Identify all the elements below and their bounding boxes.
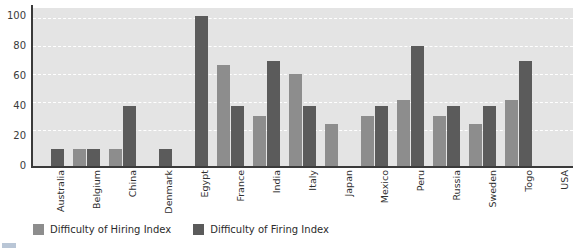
- bar-togo-firing: [519, 61, 532, 166]
- bar-egypt-firing: [195, 16, 208, 166]
- x-label-italy: Italy: [307, 170, 318, 191]
- x-label-mexico: Mexico: [379, 170, 390, 203]
- x-label-egypt: Egypt: [199, 170, 210, 197]
- bar-mexico-firing: [375, 106, 388, 166]
- x-axis-line: [31, 166, 573, 168]
- x-label-russia: Russia: [451, 170, 462, 201]
- bar-group: [217, 8, 245, 166]
- bar-belgium-hiring: [73, 149, 86, 166]
- x-label-china: China: [127, 170, 138, 197]
- bar-japan-hiring: [325, 124, 338, 166]
- bar-group: [433, 8, 461, 166]
- bar-india-firing: [267, 61, 280, 166]
- bar-russia-firing: [447, 106, 460, 166]
- bar-group: [397, 8, 425, 166]
- bar-belgium-firing: [87, 149, 100, 166]
- x-label-india: India: [271, 170, 282, 193]
- bar-france-hiring: [217, 65, 230, 166]
- bar-sweden-hiring: [469, 124, 482, 166]
- y-tick-label-60: 60: [0, 71, 26, 81]
- y-tick-label-100: 100: [0, 11, 26, 21]
- x-label-denmark: Denmark: [163, 170, 174, 214]
- x-label-peru: Peru: [415, 170, 426, 191]
- legend-label: Difficulty of Firing Index: [210, 224, 329, 235]
- bar-france-firing: [231, 106, 244, 166]
- bar-chart: 020406080100 AustraliaBelgiumChinaDenmar…: [0, 0, 585, 250]
- bar-italy-hiring: [289, 74, 302, 166]
- bar-china-firing: [123, 106, 136, 166]
- bar-denmark-firing: [159, 149, 172, 166]
- bar-group: [37, 8, 65, 166]
- bar-group: [505, 8, 533, 166]
- bar-peru-firing: [411, 46, 424, 166]
- bar-russia-hiring: [433, 116, 446, 166]
- legend-swatch-icon: [193, 224, 204, 235]
- bar-group: [469, 8, 497, 166]
- x-axis-category-labels: AustraliaBelgiumChinaDenmarkEgyptFranceI…: [0, 170, 585, 216]
- bar-togo-hiring: [505, 100, 518, 166]
- x-label-togo: Togo: [523, 170, 534, 192]
- x-label-australia: Australia: [55, 170, 66, 212]
- y-tick-label-20: 20: [0, 131, 26, 141]
- legend-item-firing[interactable]: Difficulty of Firing Index: [193, 224, 329, 235]
- y-axis-line: [31, 5, 33, 168]
- chart-legend: Difficulty of Hiring IndexDifficulty of …: [33, 224, 343, 235]
- x-label-japan: Japan: [343, 170, 354, 197]
- plot-area: [33, 8, 573, 166]
- legend-item-hiring[interactable]: Difficulty of Hiring Index: [33, 224, 171, 235]
- bar-group: [181, 8, 209, 166]
- legend-label: Difficulty of Hiring Index: [50, 224, 171, 235]
- bar-group: [361, 8, 389, 166]
- legend-swatch-icon: [33, 224, 44, 235]
- x-label-usa: USA: [559, 170, 570, 190]
- x-label-belgium: Belgium: [91, 170, 102, 209]
- bar-china-hiring: [109, 149, 122, 166]
- x-label-sweden: Sweden: [487, 170, 498, 208]
- bar-group: [289, 8, 317, 166]
- bar-australia-firing: [51, 149, 64, 166]
- bar-group: [253, 8, 281, 166]
- page-corner-mark: [2, 243, 16, 248]
- x-label-france: France: [235, 170, 246, 202]
- bar-italy-firing: [303, 106, 316, 166]
- bar-mexico-hiring: [361, 116, 374, 166]
- bar-group: [541, 8, 569, 166]
- bar-group: [325, 8, 353, 166]
- y-tick-label-40: 40: [0, 101, 26, 111]
- bar-group: [109, 8, 137, 166]
- bar-india-hiring: [253, 116, 266, 166]
- bar-group: [145, 8, 173, 166]
- y-tick-label-80: 80: [0, 41, 26, 51]
- bar-peru-hiring: [397, 100, 410, 166]
- bar-group: [73, 8, 101, 166]
- bar-sweden-firing: [483, 106, 496, 166]
